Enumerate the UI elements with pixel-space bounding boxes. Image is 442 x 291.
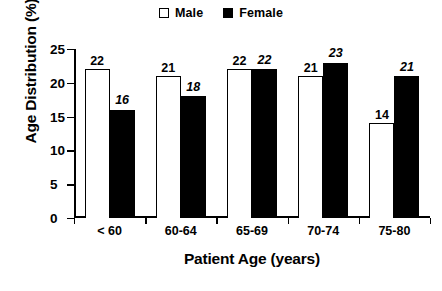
y-tick-label: 20 <box>50 75 60 90</box>
bar-female: 18 <box>181 96 206 218</box>
y-tick-label: 15 <box>50 109 60 124</box>
y-tick <box>67 83 74 84</box>
bar-male: 22 <box>227 69 252 218</box>
y-tick-label: 0 <box>50 211 60 226</box>
y-tick <box>67 218 74 219</box>
bar-male: 22 <box>85 69 110 218</box>
bar-group: 2118 <box>156 76 206 218</box>
bar-female: 16 <box>110 110 135 218</box>
x-tick <box>288 218 289 224</box>
x-tick <box>430 218 431 224</box>
bar-value-male: 22 <box>233 55 247 68</box>
bar-group: 2123 <box>298 63 348 218</box>
bar-group: 1421 <box>369 76 419 218</box>
bar-group: 2222 <box>227 69 277 218</box>
y-tick-label: 10 <box>50 143 60 158</box>
bar-value-female: 22 <box>258 54 272 67</box>
bar-value-female: 21 <box>400 61 414 74</box>
bar-chart: Male Female Age Distribution (%) 0510152… <box>0 0 442 291</box>
x-category-label: < 60 <box>97 224 122 238</box>
bar-value-female: 16 <box>115 94 129 107</box>
bar-male: 21 <box>156 76 181 218</box>
y-tick-label: 5 <box>50 177 60 192</box>
legend-entry-female: Female <box>223 7 283 20</box>
bar-female: 23 <box>323 63 348 218</box>
bar-value-male: 22 <box>90 55 104 68</box>
x-tick <box>216 218 217 224</box>
y-tick-label: 25 <box>50 42 60 57</box>
bar-value-male: 21 <box>161 62 175 75</box>
x-tick <box>74 218 75 224</box>
bar-male: 14 <box>369 123 394 218</box>
bar-female: 21 <box>394 76 419 218</box>
legend-label-female: Female <box>239 7 283 20</box>
x-category-label: 65-69 <box>236 224 268 238</box>
x-category-label: 60-64 <box>165 224 197 238</box>
y-tick <box>67 184 74 185</box>
x-category-label: 75-80 <box>378 224 410 238</box>
legend-entry-male: Male <box>159 7 203 20</box>
chart-legend: Male Female <box>0 7 442 20</box>
bar-value-male: 14 <box>375 109 389 122</box>
legend-swatch-female-icon <box>223 8 233 18</box>
x-tick <box>145 218 146 224</box>
bar-group: 2216 <box>85 69 135 218</box>
x-axis-title: Patient Age (years) <box>74 250 430 268</box>
bar-male: 21 <box>298 76 323 218</box>
y-axis-title: Age Distribution (%) <box>22 0 40 166</box>
y-tick <box>67 117 74 118</box>
plot-area: 0510152025 22162118222221231421 <box>74 49 430 218</box>
bar-value-female: 23 <box>329 47 343 60</box>
x-tick <box>359 218 360 224</box>
legend-label-male: Male <box>175 7 203 20</box>
y-tick <box>67 49 74 50</box>
y-tick <box>67 150 74 151</box>
bar-value-female: 18 <box>186 81 200 94</box>
legend-swatch-male-icon <box>159 8 169 18</box>
x-category-label: 70-74 <box>307 224 339 238</box>
bar-value-male: 21 <box>304 62 318 75</box>
y-axis-line <box>74 49 76 218</box>
bar-female: 22 <box>252 69 277 218</box>
